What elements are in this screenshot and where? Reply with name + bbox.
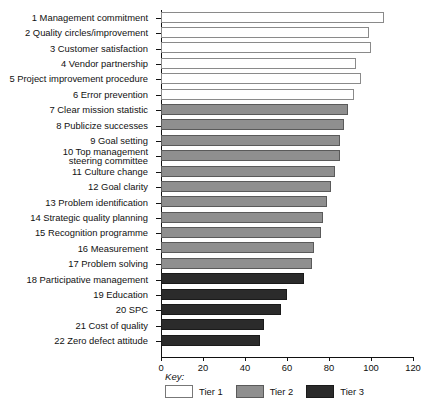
bar-row bbox=[161, 25, 413, 40]
bar bbox=[161, 227, 321, 238]
category-label-text: 18 Participative management bbox=[27, 275, 148, 285]
y-tick-mark bbox=[156, 156, 161, 157]
legend-item: Tier 1 bbox=[165, 385, 223, 398]
legend-item: Tier 2 bbox=[236, 385, 294, 398]
plot-area bbox=[161, 10, 413, 356]
y-tick-mark bbox=[156, 203, 161, 204]
bar bbox=[161, 258, 312, 269]
y-tick-mark bbox=[156, 326, 161, 327]
bar bbox=[161, 273, 304, 284]
y-tick-mark bbox=[156, 33, 161, 34]
y-tick-mark bbox=[156, 110, 161, 111]
category-label: 22 Zero defect attitude bbox=[0, 333, 152, 348]
y-tick-mark bbox=[156, 341, 161, 342]
legend-item: Tier 3 bbox=[306, 385, 364, 398]
category-label: 15 Recognition programme bbox=[0, 225, 152, 240]
category-label-text: 19 Education bbox=[93, 290, 148, 300]
bar bbox=[161, 150, 340, 161]
bar bbox=[161, 212, 323, 223]
bar bbox=[161, 12, 384, 23]
category-label-text: 15 Recognition programme bbox=[35, 228, 148, 238]
bar bbox=[161, 181, 331, 192]
y-tick-mark bbox=[156, 264, 161, 265]
category-label-text: 9 Goal setting bbox=[90, 136, 148, 146]
bar bbox=[161, 89, 354, 100]
bar-row bbox=[161, 179, 413, 194]
y-tick-mark bbox=[156, 280, 161, 281]
x-tick-mark bbox=[203, 357, 204, 361]
category-label: 18 Participative management bbox=[0, 272, 152, 287]
x-tick-mark bbox=[287, 357, 288, 361]
y-tick-mark bbox=[156, 95, 161, 96]
bar bbox=[161, 42, 371, 53]
category-label: 1 Management commitment bbox=[0, 10, 152, 25]
legend-swatch bbox=[306, 385, 334, 398]
category-label-text-2: steering committee bbox=[69, 155, 148, 166]
category-label: 10 Top managementsteering committee bbox=[0, 149, 152, 164]
x-tick-mark bbox=[161, 357, 162, 361]
category-label-text: 6 Error prevention bbox=[73, 90, 148, 100]
legend-label: Tier 2 bbox=[270, 386, 294, 397]
category-label: 8 Publicize successes bbox=[0, 118, 152, 133]
category-label-text: 2 Quality circles/improvement bbox=[25, 28, 148, 38]
bar-row bbox=[161, 333, 413, 348]
y-tick-mark bbox=[156, 79, 161, 80]
category-label-text: 20 SPC bbox=[116, 305, 148, 315]
category-label-text: 12 Goal clarity bbox=[88, 182, 148, 192]
bar bbox=[161, 196, 327, 207]
category-label: 4 Vendor partnership bbox=[0, 56, 152, 71]
category-label-text: 22 Zero defect attitude bbox=[54, 336, 148, 346]
legend-swatch bbox=[236, 385, 264, 398]
legend-label: Tier 1 bbox=[199, 386, 223, 397]
category-label: 5 Project improvement procedure bbox=[0, 72, 152, 87]
category-label-text: 17 Problem solving bbox=[68, 259, 148, 269]
category-label: 13 Problem identification bbox=[0, 195, 152, 210]
bar-row bbox=[161, 256, 413, 271]
bar-chart: 1 Management commitment2 Quality circles… bbox=[0, 0, 437, 415]
y-tick-mark bbox=[156, 64, 161, 65]
bar bbox=[161, 119, 344, 130]
category-label-text: 21 Cost of quality bbox=[76, 321, 148, 331]
category-label: 12 Goal clarity bbox=[0, 179, 152, 194]
category-label: 3 Customer satisfaction bbox=[0, 41, 152, 56]
bar-row bbox=[161, 210, 413, 225]
bar-row bbox=[161, 87, 413, 102]
bar bbox=[161, 27, 369, 38]
legend-label: Tier 3 bbox=[340, 386, 364, 397]
bar-row bbox=[161, 56, 413, 71]
category-labels: 1 Management commitment2 Quality circles… bbox=[0, 10, 152, 349]
legend-items: Tier 1Tier 2Tier 3 bbox=[165, 385, 377, 398]
bar-row bbox=[161, 302, 413, 317]
bar-row bbox=[161, 72, 413, 87]
bar-row bbox=[161, 287, 413, 302]
category-label: 21 Cost of quality bbox=[0, 318, 152, 333]
legend-title: Key: bbox=[165, 371, 377, 382]
category-label: 17 Problem solving bbox=[0, 256, 152, 271]
bar-row bbox=[161, 149, 413, 164]
bar bbox=[161, 319, 264, 330]
y-tick-mark bbox=[156, 141, 161, 142]
y-tick-mark bbox=[156, 18, 161, 19]
y-tick-mark bbox=[156, 233, 161, 234]
bar-row bbox=[161, 102, 413, 117]
bar-row bbox=[161, 118, 413, 133]
x-tick-mark bbox=[329, 357, 330, 361]
bar bbox=[161, 104, 348, 115]
bar bbox=[161, 166, 335, 177]
category-label: 11 Culture change bbox=[0, 164, 152, 179]
bar bbox=[161, 242, 314, 253]
category-label-text: 8 Publicize successes bbox=[56, 121, 148, 131]
y-tick-mark bbox=[156, 218, 161, 219]
category-label-text: 11 Culture change bbox=[72, 167, 148, 177]
bar bbox=[161, 304, 281, 315]
bar bbox=[161, 335, 260, 346]
y-tick-mark bbox=[156, 249, 161, 250]
category-label-text: 4 Vendor partnership bbox=[61, 59, 148, 69]
bar-row bbox=[161, 241, 413, 256]
category-label: 16 Measurement bbox=[0, 241, 152, 256]
x-tick-mark bbox=[413, 357, 414, 361]
category-label-text: 14 Strategic quality planning bbox=[30, 213, 148, 223]
bar-row bbox=[161, 318, 413, 333]
category-label-text: 13 Problem identification bbox=[45, 198, 148, 208]
y-tick-mark bbox=[156, 126, 161, 127]
